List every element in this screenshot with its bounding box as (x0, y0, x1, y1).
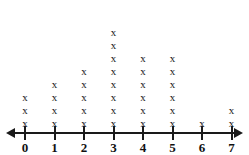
dot-mark: x (170, 78, 176, 91)
dot-mark: x (111, 65, 117, 78)
axis-label-6: 6 (190, 140, 214, 155)
dot-mark: x (22, 91, 28, 104)
dot-mark: x (170, 65, 176, 78)
dot-stack-area: xxxxxxxxxxxxxxxxxxxxxxxxxxxxxxxxxxxx (0, 0, 249, 130)
dot-mark: x (111, 91, 117, 104)
dot-mark: x (140, 91, 146, 104)
dot-column-0: xxx (14, 91, 36, 130)
dot-mark: x (111, 39, 117, 52)
number-line-axis: 012345678 (0, 126, 249, 155)
axis-tick-6 (201, 126, 203, 140)
axis-label-3: 3 (102, 140, 126, 155)
dot-mark: x (111, 78, 117, 91)
dot-mark: x (140, 78, 146, 91)
axis-label-4: 4 (131, 140, 155, 155)
dot-mark: x (52, 104, 58, 117)
dot-column-4: xxxxxx (132, 52, 154, 130)
axis-label-2: 2 (72, 140, 96, 155)
axis-tick-7 (231, 126, 233, 140)
dot-mark: x (81, 104, 87, 117)
axis-label-1: 1 (43, 140, 67, 155)
dot-mark: x (170, 91, 176, 104)
dot-column-1: xxxx (44, 78, 66, 130)
axis-tick-3 (113, 126, 115, 140)
dot-mark: x (140, 52, 146, 65)
dot-mark: x (52, 78, 58, 91)
dot-mark: x (81, 65, 87, 78)
dot-mark: x (22, 104, 28, 117)
dot-mark: x (140, 65, 146, 78)
axis-tick-0 (24, 126, 26, 140)
dot-mark: x (52, 91, 58, 104)
dot-mark: x (111, 52, 117, 65)
axis-tick-4 (142, 126, 144, 140)
axis-tick-5 (172, 126, 174, 140)
axis-arrow-right-icon (234, 128, 243, 138)
axis-label-0: 0 (13, 140, 37, 155)
dot-mark: x (229, 104, 235, 117)
dot-mark: x (140, 104, 146, 117)
axis-label-5: 5 (161, 140, 185, 155)
dot-plot-figure: xxxxxxxxxxxxxxxxxxxxxxxxxxxxxxxxxxxx 012… (0, 0, 249, 155)
dot-mark: x (111, 104, 117, 117)
dot-mark: x (170, 52, 176, 65)
dot-mark: x (170, 104, 176, 117)
axis-tick-2 (83, 126, 85, 140)
dot-mark: x (111, 26, 117, 39)
dot-column-3: xxxxxxxx (103, 26, 125, 130)
axis-tick-1 (54, 126, 56, 140)
dot-mark: x (81, 78, 87, 91)
dot-column-2: xxxxx (73, 65, 95, 130)
dot-mark: x (81, 91, 87, 104)
axis-label-7: 7 (220, 140, 244, 155)
dot-column-5: xxxxxx (162, 52, 184, 130)
